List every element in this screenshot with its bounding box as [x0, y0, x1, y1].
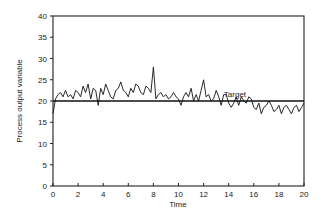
x-axis-ticks: 02468101214161820 — [51, 183, 309, 199]
y-tick-label: 40 — [38, 12, 47, 21]
x-tick-label: 16 — [249, 190, 258, 199]
y-tick-label: 5 — [43, 161, 48, 170]
y-tick-label: 10 — [38, 140, 47, 149]
y-axis-label: Process output variable — [15, 59, 24, 143]
x-tick-label: 18 — [274, 190, 283, 199]
control-chart: 0510152025303540 02468101214161820 Targe… — [0, 0, 322, 221]
y-tick-label: 35 — [38, 33, 47, 42]
x-tick-label: 4 — [101, 190, 106, 199]
x-tick-label: 2 — [76, 190, 81, 199]
x-axis-label: Time — [169, 200, 187, 209]
x-tick-label: 8 — [151, 190, 156, 199]
y-tick-label: 20 — [38, 97, 47, 106]
x-tick-label: 10 — [174, 190, 183, 199]
y-tick-label: 15 — [38, 118, 47, 127]
x-tick-label: 20 — [300, 190, 309, 199]
y-tick-label: 0 — [43, 182, 48, 191]
y-tick-label: 30 — [38, 55, 47, 64]
x-tick-label: 14 — [224, 190, 233, 199]
y-tick-label: 25 — [38, 76, 47, 85]
x-tick-label: 0 — [51, 190, 56, 199]
x-tick-label: 12 — [199, 190, 208, 199]
x-tick-label: 6 — [126, 190, 131, 199]
target-label: Target — [224, 90, 247, 99]
process-output-line — [53, 67, 304, 114]
y-axis-ticks: 0510152025303540 — [38, 12, 53, 191]
